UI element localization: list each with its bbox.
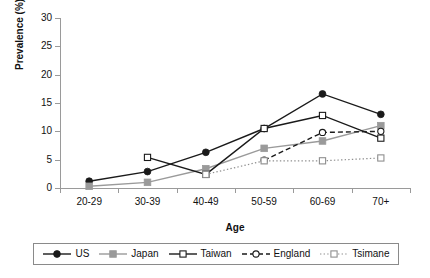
y-tick-label: 30 <box>26 13 52 23</box>
x-tick-label: 50-59 <box>234 197 294 207</box>
legend-swatch-england <box>241 248 271 260</box>
x-tick <box>410 188 411 193</box>
series-line-tsimane <box>206 158 381 174</box>
data-point-tsimane <box>378 155 384 161</box>
chart-legend: USJapanTaiwanEnglandTsimane <box>33 243 399 265</box>
x-tick <box>60 188 61 193</box>
x-tick <box>235 188 236 193</box>
x-tick-label: 20-29 <box>59 197 119 207</box>
x-tick-label: 30-39 <box>118 197 178 207</box>
x-tick-label: 60-69 <box>293 197 353 207</box>
legend-swatch-us <box>42 248 72 260</box>
data-point-us <box>377 111 384 118</box>
legend-label-us: US <box>75 249 89 259</box>
legend-label-tsimane: Tsimane <box>352 249 389 259</box>
data-point-us <box>319 91 326 98</box>
legend-item-japan[interactable]: Japan <box>98 248 158 260</box>
y-tick-label: 10 <box>26 126 52 136</box>
x-tick <box>177 188 178 193</box>
series-us <box>86 91 384 185</box>
series-tsimane <box>203 155 384 178</box>
data-point-england <box>378 128 384 134</box>
data-point-japan <box>86 183 93 190</box>
y-tick-label: 25 <box>26 41 52 51</box>
legend-swatch-taiwan <box>168 248 198 260</box>
legend-item-taiwan[interactable]: Taiwan <box>168 248 232 260</box>
series-lines-and-markers <box>60 18 410 188</box>
legend-item-us[interactable]: US <box>42 248 89 260</box>
data-point-us <box>202 149 209 156</box>
legend-item-england[interactable]: England <box>241 248 311 260</box>
legend-label-taiwan: Taiwan <box>201 249 232 259</box>
legend-marker <box>331 251 337 257</box>
x-tick <box>352 188 353 193</box>
y-tick-label: 0 <box>26 183 52 193</box>
y-tick-label: 5 <box>26 155 52 165</box>
data-point-england <box>319 129 325 135</box>
x-tick <box>118 188 119 193</box>
x-tick-label: 40-49 <box>176 197 236 207</box>
data-point-tsimane <box>319 158 325 164</box>
x-axis-title: Age <box>60 222 410 233</box>
data-point-taiwan <box>378 135 384 141</box>
legend-label-japan: Japan <box>131 249 158 259</box>
legend-marker <box>54 251 61 258</box>
y-axis-title: Prevalence (%) <box>14 0 25 70</box>
data-point-taiwan <box>261 125 267 131</box>
legend-swatch-japan <box>98 248 128 260</box>
data-point-us <box>144 168 151 175</box>
plot-area: 051015202530 20-2930-3940-4950-5960-6970… <box>60 18 410 188</box>
series-line-japan <box>89 126 381 187</box>
y-tick-label: 15 <box>26 98 52 108</box>
legend-marker <box>179 251 185 257</box>
data-point-taiwan <box>144 154 150 160</box>
data-point-japan <box>261 145 268 152</box>
legend-item-tsimane[interactable]: Tsimane <box>319 248 389 260</box>
data-point-tsimane <box>261 158 267 164</box>
legend-swatch-tsimane <box>319 248 349 260</box>
x-tick-label: 70+ <box>351 197 411 207</box>
x-tick <box>293 188 294 193</box>
prevalence-by-age-line-chart: 051015202530 20-2930-3940-4950-5960-6970… <box>0 0 430 278</box>
data-point-japan <box>144 179 151 186</box>
legend-marker <box>110 251 117 258</box>
legend-marker <box>252 251 258 257</box>
data-point-tsimane <box>203 171 209 177</box>
data-point-taiwan <box>319 112 325 118</box>
legend-label-england: England <box>274 249 311 259</box>
data-point-japan <box>319 138 326 145</box>
y-tick-label: 20 <box>26 70 52 80</box>
